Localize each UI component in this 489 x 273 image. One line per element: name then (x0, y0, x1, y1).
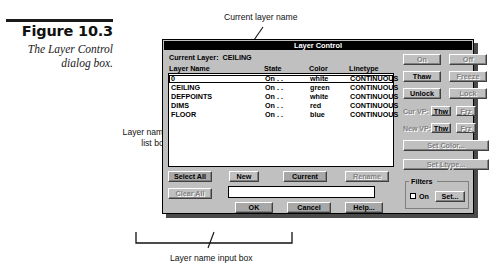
annotation-current-layer-name: Current layer name (224, 12, 298, 22)
cell-layer-linetype: CONTINUOUS (350, 75, 398, 83)
filters-set-button[interactable]: Set... (435, 191, 465, 202)
current-layer-label: Current Layer: CEILING (169, 53, 252, 62)
new-vp-freeze-button[interactable]: Frz (456, 123, 476, 133)
cell-layer-color: white (310, 75, 328, 83)
table-row[interactable]: DIMSOn . .redCONTINUOUS (169, 102, 393, 110)
cur-vp-thaw-button[interactable]: Thw (431, 106, 451, 116)
cell-layer-name: DEFPOINTS (171, 93, 212, 101)
cur-vp-label: Cur VP: (403, 108, 429, 115)
column-header-layer-name: Layer Name (169, 64, 210, 73)
cell-layer-name: 0 (171, 75, 175, 83)
column-header-color: Color (309, 64, 328, 73)
cell-layer-state: On . . (265, 75, 283, 83)
cell-layer-name: FLOOR (171, 111, 196, 119)
cell-layer-color: red (310, 102, 321, 110)
dialog-title: Layer Control (164, 41, 472, 50)
figure-number: Figure 10.3 (6, 23, 113, 39)
help-button[interactable]: Help... (345, 202, 383, 213)
cell-layer-linetype: CONTINUOUS (350, 102, 398, 110)
select-all-button[interactable]: Select All (168, 171, 212, 182)
thaw-button[interactable]: Thaw (403, 71, 441, 82)
dialog-titlebar[interactable]: Layer Control (164, 41, 472, 50)
list-column-headers: Layer Name State Color Linetype (169, 64, 393, 73)
annotation-layer-name-list-box: Layer name list box (76, 127, 168, 149)
annotation-layer-name-input-box: Layer name input box (170, 253, 253, 263)
column-header-state: State (264, 64, 282, 73)
new-vp-thaw-button[interactable]: Thw (431, 123, 451, 133)
cell-layer-state: On . . (265, 111, 283, 119)
cell-layer-name: CEILING (171, 84, 200, 92)
cell-layer-color: white (310, 93, 328, 101)
cancel-button[interactable]: Cancel (287, 202, 331, 213)
table-row[interactable]: DEFPOINTSOn . .whiteCONTINUOUS (169, 93, 393, 101)
set-ltype-button[interactable]: Set Ltype... (403, 159, 489, 170)
rename-button[interactable]: Rename (345, 171, 389, 182)
freeze-button[interactable]: Freeze (449, 71, 487, 82)
cell-layer-linetype: CONTINUOUS (350, 93, 398, 101)
layer-name-input[interactable] (228, 186, 375, 198)
figure-rule (6, 19, 113, 22)
clear-all-button[interactable]: Clear All (168, 188, 212, 199)
layer-name-list-box[interactable]: 0On . .whiteCONTINUOUSCEILINGOn . .green… (168, 73, 394, 167)
table-row[interactable]: FLOOROn . .blueCONTINUOUS (169, 111, 393, 119)
new-vp-label: New VP: (403, 125, 431, 132)
filters-on-checkbox[interactable] (410, 193, 416, 199)
filters-on-label: On (419, 192, 429, 201)
off-button[interactable]: Off (449, 54, 487, 65)
cell-layer-state: On . . (265, 102, 283, 110)
cell-layer-linetype: CONTINUOUS (350, 111, 398, 119)
cell-layer-linetype: CONTINUOUS (350, 84, 398, 92)
cur-vp-freeze-button[interactable]: Frz (456, 106, 476, 116)
ok-button[interactable]: OK (235, 202, 273, 213)
current-button[interactable]: Current (283, 171, 327, 182)
figure-caption: The Layer Control dialog box. (6, 43, 113, 70)
new-button[interactable]: New (229, 171, 259, 182)
cell-layer-name: DIMS (171, 102, 189, 110)
unlock-button[interactable]: Unlock (403, 88, 441, 99)
layer-control-dialog: Layer Control Current Layer: CEILING Lay… (162, 39, 474, 214)
filters-group-label: Filters (410, 177, 434, 186)
cell-layer-color: blue (310, 111, 325, 119)
on-button[interactable]: On (403, 54, 441, 65)
cell-layer-state: On . . (265, 84, 283, 92)
cell-layer-color: green (310, 84, 330, 92)
lock-button[interactable]: Lock (449, 88, 487, 99)
table-row[interactable]: 0On . .whiteCONTINUOUS (169, 75, 393, 83)
column-header-linetype: Linetype (349, 64, 379, 73)
cell-layer-state: On . . (265, 93, 283, 101)
set-color-button[interactable]: Set Color... (403, 140, 489, 151)
table-row[interactable]: CEILINGOn . .greenCONTINUOUS (169, 84, 393, 92)
